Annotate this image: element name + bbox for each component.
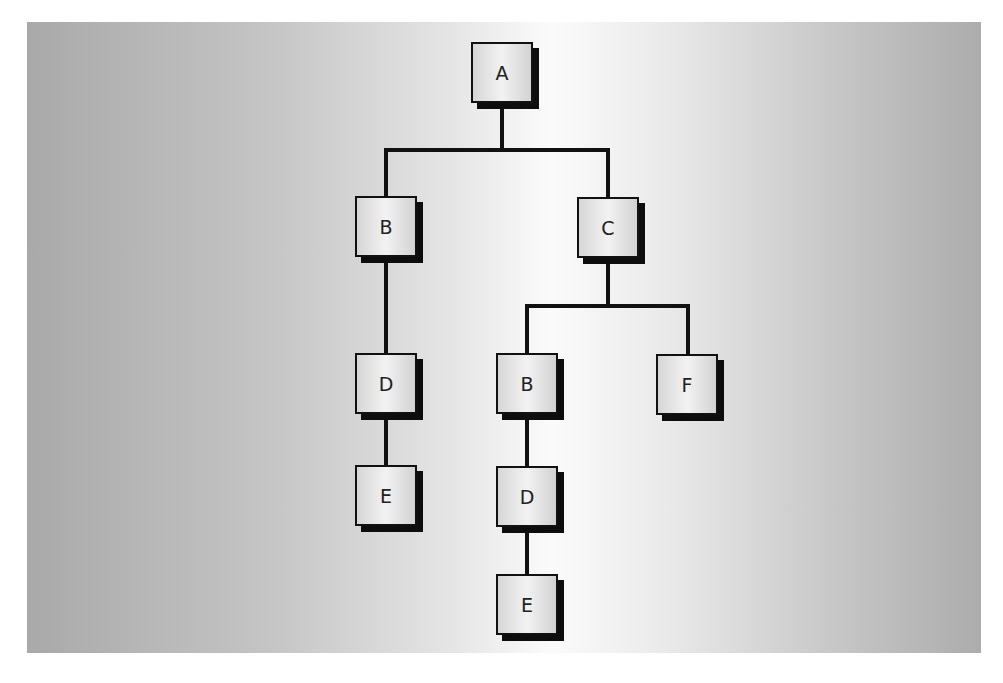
node-e-right: E xyxy=(496,574,558,635)
node-label: D xyxy=(379,373,394,395)
node-label: A xyxy=(496,62,509,84)
node-label: C xyxy=(601,217,614,239)
node-label: E xyxy=(521,594,533,616)
node-d-left: D xyxy=(355,353,417,414)
node-a: A xyxy=(471,42,533,103)
node-c: C xyxy=(577,197,639,258)
node-e-left: E xyxy=(355,465,417,526)
node-label: E xyxy=(380,485,392,507)
node-b-right: B xyxy=(496,353,558,414)
node-label: F xyxy=(682,374,693,396)
node-f: F xyxy=(656,354,718,415)
node-label: B xyxy=(520,373,533,395)
node-b-left: B xyxy=(355,196,417,257)
node-label: B xyxy=(379,216,392,238)
node-label: D xyxy=(520,486,535,508)
node-d-right: D xyxy=(496,466,558,527)
